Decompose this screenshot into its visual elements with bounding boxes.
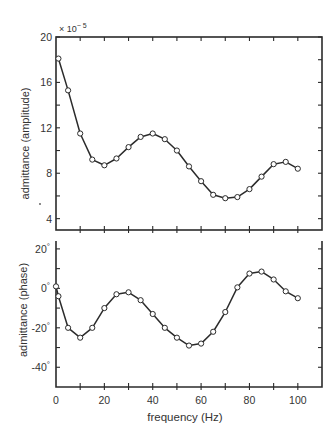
data-point-marker <box>223 196 228 201</box>
data-point-marker <box>186 164 191 169</box>
data-point-marker <box>174 335 179 340</box>
phase-panel: -40°-20°0°20°020406080100admittance (pha… <box>17 241 322 423</box>
figure: 48121620admittance (amplitude)× 10− 5 -4… <box>0 0 336 430</box>
data-point-marker <box>78 131 83 136</box>
x-tick-label: 80 <box>244 394 256 406</box>
data-point-marker <box>138 134 143 139</box>
x-tick-label: 20 <box>99 394 111 406</box>
data-point-marker <box>150 131 155 136</box>
y-tick-label: 20° <box>35 242 50 255</box>
y-tick-label: 4 <box>46 213 52 225</box>
data-point-marker <box>53 284 58 289</box>
y-tick-label: 12 <box>40 122 52 134</box>
x-axis-label: frequency (Hz) <box>147 411 223 423</box>
data-point-marker <box>198 341 203 346</box>
y-tick-label: -20° <box>32 321 50 334</box>
data-point-marker <box>247 187 252 192</box>
data-point-marker <box>211 329 216 334</box>
y-tick-label: -40° <box>32 360 50 373</box>
y-scale-note: × 10− 5 <box>59 22 87 34</box>
data-point-marker <box>283 159 288 164</box>
y-tick-label: 0° <box>41 281 50 294</box>
data-point-marker <box>283 289 288 294</box>
data-point-marker <box>150 311 155 316</box>
plot-frame <box>56 37 322 230</box>
data-point-marker <box>65 88 70 93</box>
data-point-marker <box>114 156 119 161</box>
y-tick-label: 16 <box>40 76 52 88</box>
data-point-marker <box>223 309 228 314</box>
data-point-marker <box>102 163 107 168</box>
data-point-marker <box>138 298 143 303</box>
x-tick-label: 60 <box>195 394 207 406</box>
data-point-marker <box>259 269 264 274</box>
data-point-marker <box>174 148 179 153</box>
data-point-marker <box>90 157 95 162</box>
data-point-marker <box>102 305 107 310</box>
data-point-marker <box>65 325 70 330</box>
data-point-marker <box>295 166 300 171</box>
data-point-marker <box>247 271 252 276</box>
data-point-marker <box>235 285 240 290</box>
y-axis-label: admittance (amplitude) <box>19 88 31 200</box>
data-point-marker <box>271 162 276 167</box>
data-point-marker <box>126 145 131 150</box>
data-point-marker <box>259 174 264 179</box>
data-point-marker <box>186 343 191 348</box>
chart-canvas: 48121620admittance (amplitude)× 10− 5 -4… <box>0 0 336 430</box>
data-point-marker <box>162 137 167 142</box>
plot-frame <box>56 241 322 387</box>
y-tick-label: 8 <box>46 167 52 179</box>
data-point-marker <box>235 194 240 199</box>
data-point-marker <box>90 325 95 330</box>
scan-speck <box>39 203 41 205</box>
data-point-marker <box>56 294 61 299</box>
data-point-marker <box>198 179 203 184</box>
y-axis-label: admittance (phase) <box>17 263 29 357</box>
data-point-marker <box>56 56 61 61</box>
x-tick-label: 40 <box>147 394 159 406</box>
data-point-marker <box>162 325 167 330</box>
x-tick-label: 100 <box>289 394 307 406</box>
data-point-marker <box>114 292 119 297</box>
data-point-marker <box>211 192 216 197</box>
data-line <box>56 272 298 346</box>
y-tick-label: 20 <box>40 31 52 43</box>
data-point-marker <box>78 335 83 340</box>
amplitude-panel: 48121620admittance (amplitude)× 10− 5 <box>19 22 322 233</box>
data-point-marker <box>126 290 131 295</box>
x-tick-label: 0 <box>53 394 59 406</box>
data-point-marker <box>295 296 300 301</box>
data-point-marker <box>271 277 276 282</box>
